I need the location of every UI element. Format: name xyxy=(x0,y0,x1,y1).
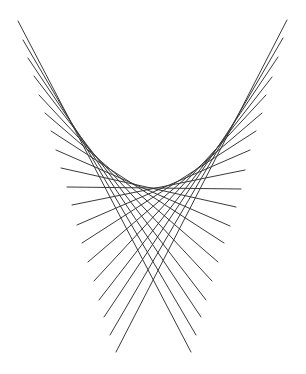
tangent-line-right-4 xyxy=(99,77,272,300)
tangent-lines-group xyxy=(18,20,287,352)
tangent-line-right-3 xyxy=(104,57,278,317)
parabola-envelope-diagram xyxy=(0,0,306,374)
